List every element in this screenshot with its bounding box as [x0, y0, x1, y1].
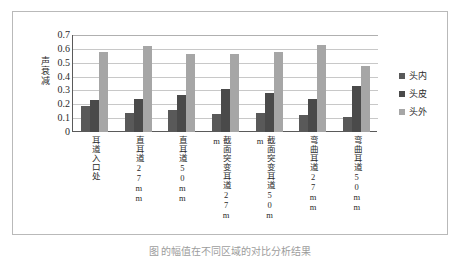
bar [212, 114, 221, 132]
x-tick-label: 截面突变耳道27mm [219, 136, 230, 228]
x-tick-label: 弯曲耳道27mm [306, 136, 317, 228]
bar-group [204, 35, 248, 132]
legend-swatch-icon [399, 73, 405, 79]
bar [221, 89, 230, 132]
figure-caption: 图 的幅值在不同区域的对比分析结果 [0, 243, 460, 257]
figure-container: 声衰减 00.10.20.30.40.50.60.7 耳道入口处直耳道27mm直… [0, 0, 460, 257]
x-tick-label: 截面突变耳道50mm [263, 136, 274, 228]
bar [186, 54, 195, 132]
bar [134, 99, 143, 132]
legend-item[interactable]: 头外 [399, 103, 457, 121]
y-tick-label: 0.1 [58, 113, 71, 123]
bar [299, 115, 308, 132]
bar [143, 46, 152, 132]
bar [308, 99, 317, 132]
bar [125, 113, 134, 132]
y-tick-label: 0.6 [58, 44, 71, 54]
bar [256, 113, 265, 132]
y-tick-label: 0.3 [58, 85, 71, 95]
x-tick-label: 耳道入口处 [88, 136, 99, 228]
legend-swatch-icon [399, 109, 405, 115]
legend-item[interactable]: 头皮 [399, 85, 457, 103]
plot-area: 00.10.20.30.40.50.60.7 [72, 35, 377, 132]
y-tick-label: 0.7 [58, 30, 71, 40]
legend-label: 头内 [409, 72, 427, 81]
bar [90, 100, 99, 132]
bar-group [247, 35, 291, 132]
bar [265, 93, 274, 132]
chart-legend: 头内头皮头外 [399, 67, 457, 121]
bar [168, 110, 177, 132]
x-axis-tick-labels: 耳道入口处直耳道27mm直耳道50mm截面突变耳道27mm截面突变耳道50mm弯… [72, 136, 377, 231]
legend-item[interactable]: 头内 [399, 67, 457, 85]
y-tick-label: 0.2 [58, 99, 71, 109]
chart-frame: 声衰减 00.10.20.30.40.50.60.7 耳道入口处直耳道27mm直… [12, 11, 448, 235]
bar [177, 95, 186, 132]
bar-group [334, 35, 378, 132]
x-tick-label: 弯曲耳道50mm [350, 136, 361, 228]
bar [317, 45, 326, 132]
bar-group [291, 35, 335, 132]
bar [343, 117, 352, 132]
bars-layer [73, 35, 378, 132]
bar [99, 52, 108, 132]
bar [361, 66, 370, 133]
legend-label: 头皮 [409, 90, 427, 99]
bar [352, 86, 361, 132]
bar [81, 106, 90, 132]
bar [274, 52, 283, 132]
bar [230, 54, 239, 132]
legend-swatch-icon [399, 91, 405, 97]
bar-group [117, 35, 161, 132]
y-tick-label: 0.5 [58, 58, 71, 68]
bar-group [160, 35, 204, 132]
y-tick-label: 0.4 [58, 72, 71, 82]
y-tick-label: 0 [65, 127, 70, 137]
legend-label: 头外 [409, 108, 427, 117]
x-tick-label: 直耳道27mm [132, 136, 143, 228]
y-axis-title: 声衰减 [39, 56, 51, 86]
x-tick-label: 直耳道50mm [175, 136, 186, 228]
bar-group [73, 35, 117, 132]
